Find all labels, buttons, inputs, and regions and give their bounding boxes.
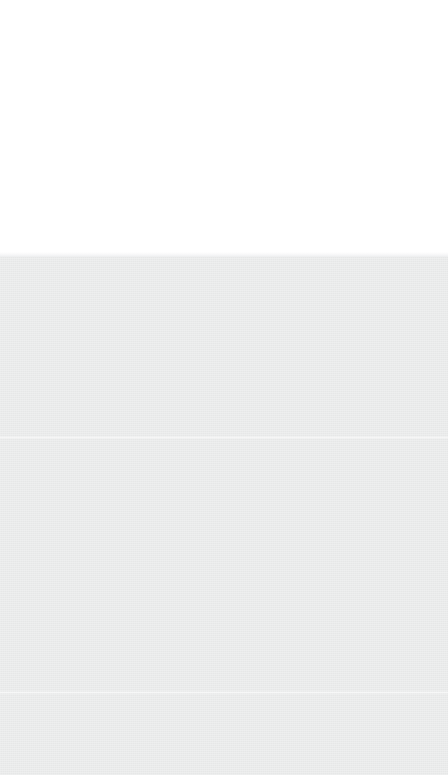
- empty-content-region: [0, 257, 448, 775]
- faint-horizontal-seam-upper: [0, 436, 448, 439]
- faint-horizontal-seam-lower: [0, 691, 448, 694]
- screenshot-viewport: [0, 0, 448, 775]
- lower-blank-gray-area: [0, 257, 448, 775]
- upper-blank-white-area: [0, 0, 448, 254]
